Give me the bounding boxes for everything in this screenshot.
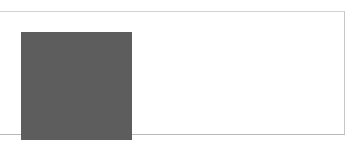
image-panel — [0, 11, 345, 135]
noise-image-canvas[interactable] — [21, 32, 132, 140]
page-canvas — [0, 0, 359, 147]
blank-content-area — [134, 21, 339, 127]
noise-image[interactable] — [21, 32, 132, 140]
